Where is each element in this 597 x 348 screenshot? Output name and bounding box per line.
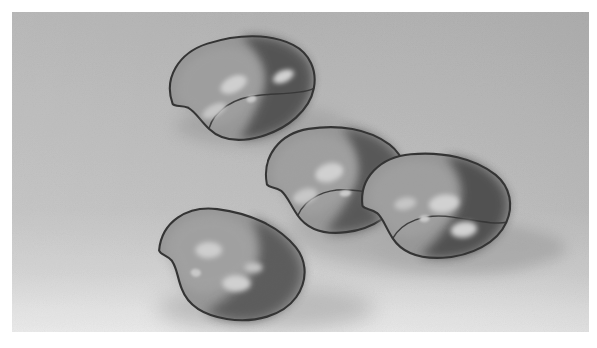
bean-illustration-canvas xyxy=(0,0,597,348)
figure-root xyxy=(0,0,597,348)
grain-overlay xyxy=(12,12,589,332)
